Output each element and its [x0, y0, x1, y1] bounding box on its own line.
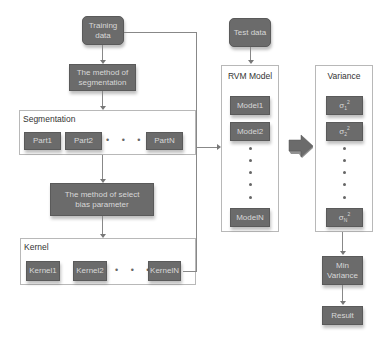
- part-label: Part1: [33, 136, 52, 146]
- segmentation-method-node: The method of segmentation: [69, 64, 136, 91]
- variance-node: σN2: [326, 208, 363, 227]
- ellipsis-dot: [249, 171, 252, 174]
- variance-node: σ22: [326, 122, 363, 141]
- model-node: Model1: [230, 96, 270, 115]
- connector-bus-to-rvm: [196, 147, 218, 148]
- connector-segmentation-to-biasmethod: [102, 155, 103, 180]
- connector-min-to-result: [342, 285, 343, 302]
- connector-vertical-bus: [196, 32, 197, 272]
- connector-biasmethod-to-kernel: [102, 216, 103, 235]
- part-label: PartN: [154, 136, 174, 146]
- model-node: Model2: [230, 122, 270, 141]
- training-data-node: Training data: [82, 16, 124, 45]
- training-data-label: Training data: [83, 21, 123, 41]
- part-node: PartN: [146, 132, 183, 150]
- test-data-node: Test data: [229, 18, 271, 47]
- variance-label: σ22: [339, 123, 350, 139]
- connector-training-right: [124, 32, 196, 33]
- kernel-label: Kernel1: [29, 266, 57, 276]
- connector-segmethod-to-segmentation: [102, 91, 103, 107]
- bias-method-label: The method of select bias parameter: [51, 190, 153, 210]
- ellipsis-dot: [343, 159, 346, 162]
- kernel-node: Kernel2: [73, 261, 107, 281]
- variance-title: Variance: [315, 71, 373, 81]
- kernel-node: Kernel1: [26, 261, 60, 281]
- arrowhead-icon: [340, 251, 346, 255]
- connector-test-to-rvm: [250, 47, 251, 61]
- ellipsis-dot: [249, 159, 252, 162]
- ellipsis-dot: [343, 196, 346, 199]
- rvm-model-title: RVM Model: [221, 71, 279, 81]
- connector-variance-to-min: [342, 232, 343, 252]
- min-variance-label: Min Variance: [323, 261, 362, 281]
- segmentation-title: Segmentation: [23, 114, 75, 124]
- model-label: ModelN: [236, 213, 264, 223]
- ellipsis-dot: [249, 183, 252, 186]
- block-arrow-right-icon: [288, 134, 314, 158]
- bias-method-node: The method of select bias parameter: [50, 183, 154, 216]
- model-node: ModelN: [230, 208, 270, 227]
- ellipsis-dot: [343, 183, 346, 186]
- part-node: Part2: [65, 132, 102, 150]
- model-label: Model2: [237, 127, 263, 137]
- variance-node: σ12: [326, 96, 363, 115]
- ellipsis-dot: [249, 196, 252, 199]
- connector-kernel-to-bus: [183, 271, 197, 272]
- kernel-title: Kernel: [24, 242, 49, 252]
- result-node: Result: [322, 306, 363, 325]
- result-label: Result: [331, 311, 354, 321]
- kernel-label: KernelN: [150, 266, 179, 276]
- segmentation-method-label: The method of segmentation: [70, 68, 135, 88]
- kernel-node: KernelN: [148, 261, 181, 281]
- ellipsis-dot: [249, 147, 252, 150]
- test-data-label: Test data: [234, 28, 266, 38]
- model-label: Model1: [237, 101, 263, 111]
- connector-training-to-segmethod: [102, 45, 103, 61]
- variance-label: σ12: [339, 97, 350, 113]
- part-label: Part2: [74, 136, 93, 146]
- ellipsis-dot: [343, 171, 346, 174]
- ellipsis-dot: [343, 147, 346, 150]
- part-node: Part1: [24, 132, 61, 150]
- kernel-label: Kernel2: [76, 266, 104, 276]
- variance-label: σN2: [339, 209, 350, 225]
- min-variance-node: Min Variance: [322, 256, 363, 285]
- arrowhead-icon: [340, 301, 346, 305]
- arrowhead-icon: [248, 60, 254, 64]
